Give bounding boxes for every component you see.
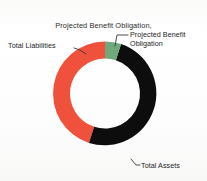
slice-label-total-liabilities-text: Total Liabilities [8, 41, 56, 50]
donut-slice-total-assets[interactable] [89, 44, 156, 145]
leader-line-total-assets [131, 159, 140, 165]
slice-label-pbo-line-2: Obligation [130, 39, 186, 48]
donut-chart [0, 0, 207, 181]
slice-label-total-liabilities: Total Liabilities [8, 41, 56, 50]
slice-label-projected-benefit-obligation: Projected Benefit Obligation [130, 30, 186, 48]
slice-label-pbo-line-1: Projected Benefit [130, 30, 186, 39]
slice-label-total-assets: Total Assets [141, 161, 180, 170]
slice-label-total-assets-text: Total Assets [141, 161, 180, 170]
chart-figure: Projected Benefit Obligation, (All Secto… [0, 0, 207, 181]
